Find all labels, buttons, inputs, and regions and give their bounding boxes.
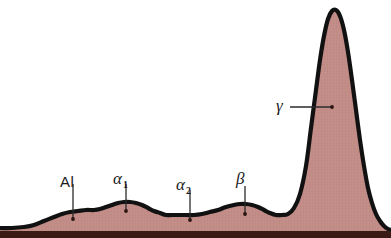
label-beta-text: β [236, 169, 244, 188]
label-gamma-text: γ [276, 96, 283, 115]
leader-dot-4 [330, 105, 334, 109]
electrophoresis-figure: Al α1 α2 β γ [0, 0, 391, 238]
densitometry-chart [0, 0, 391, 238]
trace-fill-area [0, 10, 391, 234]
label-beta: β [236, 170, 244, 187]
label-albumin-text: Al [60, 173, 74, 190]
label-alpha1-text: α [113, 169, 122, 188]
leader-dot-2 [188, 218, 192, 222]
leader-dot-1 [124, 209, 128, 213]
baseline-strip [0, 231, 391, 238]
label-alpha1: α1 [113, 170, 128, 190]
label-alpha2: α2 [176, 176, 191, 196]
leader-dot-0 [71, 217, 75, 221]
leader-dot-3 [243, 212, 247, 216]
label-albumin: Al [60, 174, 74, 189]
label-gamma: γ [276, 97, 283, 114]
label-alpha2-text: α [176, 175, 185, 194]
label-alpha1-subscript: 1 [123, 179, 128, 190]
label-alpha2-subscript: 2 [186, 185, 191, 196]
